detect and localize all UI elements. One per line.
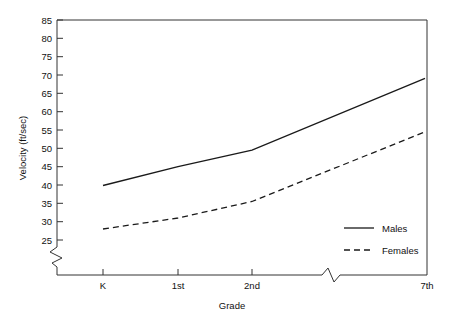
y-tick-label-35: 35 [41,198,52,209]
y-tick-label-75: 75 [41,51,52,62]
y-axis-break-icon [50,247,62,267]
y-tick-label-50: 50 [41,143,52,154]
y-tick-label-40: 40 [41,180,52,191]
velocity-by-grade-chart: 85 80 75 70 65 60 55 50 45 40 35 30 25 V… [0,0,449,320]
y-tick-label-45: 45 [41,161,52,172]
series-line-males [103,78,425,185]
y-tick-label-55: 55 [41,125,52,136]
x-axis-tick-labels: K 1st 2nd 7th [100,280,434,291]
legend-label-males: Males [382,223,408,234]
y-axis-title: Velocity (ft/sec) [17,116,28,180]
x-tick-label-2nd: 2nd [244,280,260,291]
y-tick-label-25: 25 [41,235,52,246]
y-tick-label-60: 60 [41,106,52,117]
y-tick-label-80: 80 [41,33,52,44]
chart-legend: Males Females [344,223,419,256]
plot-frame [50,20,427,282]
y-tick-label-30: 30 [41,216,52,227]
y-axis-ticks [57,20,63,240]
y-tick-label-65: 65 [41,88,52,99]
legend-label-females: Females [382,245,419,256]
chart-canvas: 85 80 75 70 65 60 55 50 45 40 35 30 25 V… [0,0,449,320]
x-axis-ticks [103,269,252,275]
x-tick-label-1st: 1st [172,280,185,291]
series-line-females [103,132,425,229]
y-tick-label-85: 85 [41,15,52,26]
x-axis-break-icon [322,268,340,282]
x-tick-label-7th: 7th [420,280,433,291]
x-axis-title: Grade [219,300,245,311]
x-tick-label-k: K [100,280,107,291]
y-axis-tick-labels: 85 80 75 70 65 60 55 50 45 40 35 30 25 [41,15,52,246]
y-tick-label-70: 70 [41,70,52,81]
